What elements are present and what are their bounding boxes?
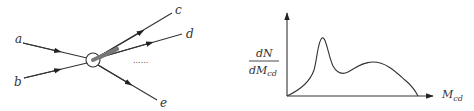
outgoing-line-d [98,34,182,58]
x-axis-label: Mcd [441,88,463,103]
y-label-denominator: dMcd [249,64,277,78]
outgoing-line-e [98,65,157,100]
ellipsis: ...... [133,56,148,65]
outgoing-line-c [98,13,172,57]
label-b: b [14,75,22,89]
distribution-plot: dN dMcd Mcd [249,13,463,103]
incoming-line-a [23,43,87,58]
y-axis-label: dN dMcd [249,47,279,78]
distribution-curve [287,38,418,96]
label-d: d [186,27,194,41]
y-label-numerator: dN [256,47,273,60]
diagram-canvas: a b c d e ...... [0,0,474,111]
label-c: c [175,3,182,17]
feynman-diagram: a b c d e ...... [14,3,194,110]
incoming-line-b [24,63,87,78]
label-e: e [160,96,167,110]
label-a: a [15,32,22,46]
